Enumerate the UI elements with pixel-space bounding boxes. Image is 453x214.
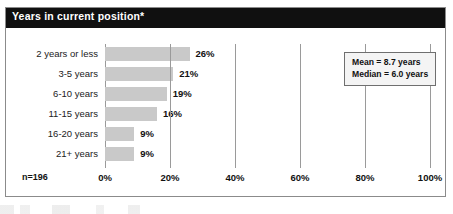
stats-mean: Mean = 8.7 years <box>352 57 428 69</box>
x-tick-60: 60% <box>280 172 320 183</box>
bar-row: 11-15 years16% <box>0 104 453 124</box>
gridline-60 <box>300 44 301 168</box>
category-label: 3-5 years <box>0 64 98 84</box>
bar-value-label: 9% <box>140 144 154 164</box>
sample-size-label: n=196 <box>22 172 48 182</box>
chart-figure: Years in current position* 2 years or le… <box>0 0 453 214</box>
category-label: 16-20 years <box>0 124 98 144</box>
bar-row: 16-20 years9% <box>0 124 453 144</box>
bar-value-label: 21% <box>179 64 198 84</box>
x-tick-0: 0% <box>85 172 125 183</box>
page-edge-artifact <box>0 205 240 214</box>
category-label: 21+ years <box>0 144 98 164</box>
bar-value-label: 9% <box>140 124 154 144</box>
x-tick-40: 40% <box>215 172 255 183</box>
bar <box>105 87 167 101</box>
stats-median: Median = 6.0 years <box>352 69 428 81</box>
bar <box>105 67 173 81</box>
category-label: 6-10 years <box>0 84 98 104</box>
category-label: 2 years or less <box>0 44 98 64</box>
bar-row: 21+ years9% <box>0 144 453 164</box>
bar-row: 6-10 years19% <box>0 84 453 104</box>
category-label: 11-15 years <box>0 104 98 124</box>
bar <box>105 47 190 61</box>
stats-annotation-box: Mean = 8.7 years Median = 6.0 years <box>344 52 436 86</box>
x-tick-80: 80% <box>345 172 385 183</box>
gridline-40 <box>235 44 236 168</box>
chart-title: Years in current position* <box>12 10 144 22</box>
bar-value-label: 16% <box>163 104 182 124</box>
x-tick-20: 20% <box>150 172 190 183</box>
bar <box>105 107 157 121</box>
bar <box>105 147 134 161</box>
bar-value-label: 26% <box>196 44 215 64</box>
gridline-20 <box>170 44 171 168</box>
x-tick-100: 100% <box>410 172 450 183</box>
bar <box>105 127 134 141</box>
bar-value-label: 19% <box>173 84 192 104</box>
